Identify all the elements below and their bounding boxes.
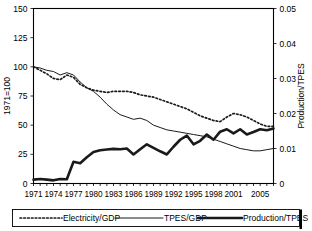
legend-entries: Electricity/GDPTPES/GDPProduction/TPES: [20, 213, 309, 223]
chart-legend: Electricity/GDPTPES/GDPProduction/TPES: [13, 210, 309, 230]
x-axis-tick-label: 1971: [24, 190, 43, 199]
y-axis-right-tick-label: 0.04: [280, 39, 297, 49]
y-axis-left-tick-label: 50: [18, 120, 28, 130]
series-paths-group: [34, 67, 274, 181]
y-axis-right-tick-labels: 00.010.020.030.040.05: [280, 4, 297, 189]
legend-label-electricity-gdp: Electricity/GDP: [63, 213, 120, 223]
y-axis-left-tick-labels: 0255075100125150: [13, 4, 27, 189]
x-axis-tick-label: 1992: [164, 190, 183, 199]
y-axis-left-title: 1971=100: [2, 77, 12, 115]
y-axis-right-tick-label: 0.01: [280, 144, 297, 154]
y-axis-right-tick-label: 0.03: [280, 74, 297, 84]
x-axis-tick-label: 1989: [144, 190, 163, 199]
x-axis-tick-label: 2001: [224, 190, 243, 199]
series-line-production-tpes: [34, 129, 274, 181]
y-axis-left-tick-label: 75: [18, 91, 28, 101]
x-axis-tick-label: 1974: [44, 190, 63, 199]
x-axis-tick-label: 2005: [251, 190, 270, 199]
y-axis-left-tick-label: 150: [13, 4, 27, 14]
y-axis-right-tick-label: 0: [280, 179, 285, 189]
y-axis-left-tick-label: 125: [13, 33, 27, 43]
x-axis-tick-label: 1995: [184, 190, 203, 199]
y-axis-right-tick-label: 0.02: [280, 109, 297, 119]
y-axis-left-tick-label: 0: [23, 179, 28, 189]
y-axis-left-tick-label: 25: [18, 149, 28, 159]
x-axis-tick-label: 1977: [64, 190, 83, 199]
plot-area-frame: [34, 9, 274, 184]
series-line-tpes-gdp: [34, 67, 274, 151]
x-axis-tick-label: 1986: [124, 190, 143, 199]
x-axis-tick-label: 1980: [84, 190, 103, 199]
y-axis-right-tick-label: 0.05: [280, 4, 297, 14]
x-axis-tick-label: 1998: [204, 190, 223, 199]
y-axis-right-title: Production/TPES: [296, 63, 306, 129]
y-axis-left-tick-label: 100: [13, 62, 27, 72]
chart-figure: 0255075100125150 00.010.020.030.040.05 1…: [0, 0, 312, 231]
series-line-electricity-gdp: [34, 67, 274, 127]
line-chart: 0255075100125150 00.010.020.030.040.05 1…: [0, 0, 312, 231]
x-axis-tick-labels: 1971197419771980198319861989199219951998…: [24, 190, 269, 199]
x-axis-tick-label: 1983: [104, 190, 123, 199]
legend-label-production-tpes: Production/TPES: [243, 213, 309, 223]
